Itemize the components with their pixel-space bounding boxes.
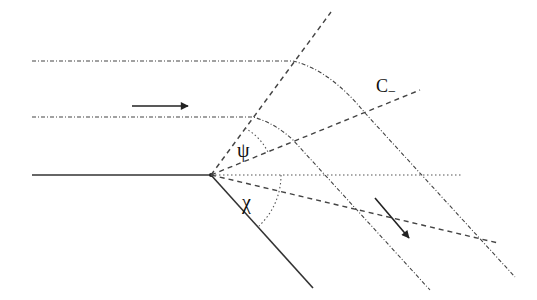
streamline-lower [32,117,430,290]
characteristic-c-minus-line [211,90,420,175]
label-psi: ψ [237,139,250,162]
label-c-sub: − [388,84,396,99]
label-chi: χ [241,191,251,214]
label-c-main: C [376,76,388,96]
mach-line-trailing [211,175,498,243]
angle-arc-chi [259,175,281,226]
wall-downstream [211,175,313,288]
flow-arrow-outgoing [375,198,409,238]
expansion-fan-diagram: ψ χ C− [0,0,537,300]
label-c-minus: C− [376,76,396,99]
